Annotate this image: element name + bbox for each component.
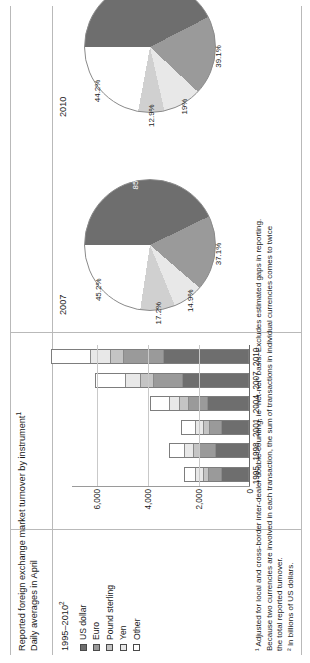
pie-slice-label: 37.1% [214,243,223,266]
bar-chart: 02,0004,0006,000 19951998200120042007201… [72,345,268,513]
legend-item-us-dollar: US dollar [78,585,88,651]
bar-segment [111,350,124,363]
pie-slice-label: 19% [180,99,189,115]
bar-column [184,467,249,482]
bar-column [51,349,249,364]
bar-segment [126,374,141,387]
pie-slice-label: 39.1% [213,45,222,68]
bar-plot-area: 02,0004,0006,000 [72,345,250,487]
footnote-line-1: ¹ Adjusted for local and cross-border in… [254,11,264,651]
title-footnote-marker: 1 [15,412,22,416]
y-axis-tick-label: 2,000 [195,489,204,510]
bar-segment [200,444,216,457]
bar-segment [170,444,186,457]
pie-slice-label: 14.9% [186,289,195,312]
bar-series-group [72,345,249,486]
legend-label: Other [132,619,142,641]
header-rule [52,6,53,655]
x-axis-line [249,345,250,486]
legend-swatch-icon [120,644,127,651]
bar-segment [151,397,170,410]
figure-rotation-wrapper: Reported foreign exchange market turnove… [0,0,310,663]
gridline [148,345,149,486]
pie-slice-label: 45.2% [93,278,102,301]
legend-label: US dollar [78,605,88,640]
chart-legend: US dollarEuroPound sterlingYenOther [78,585,145,651]
bar-segment [183,374,248,387]
y-axis-tick-label: 0 [246,489,255,494]
top-rule [10,6,11,655]
bar-segment [209,468,222,481]
bar-segment [210,421,223,434]
footnote-line-2: Because two currencies are involved in e… [265,11,275,651]
pie-slice-label: 17.2% [154,302,163,325]
legend-swatch-icon [106,644,113,651]
period-footnote-marker: 2 [58,601,65,605]
bar-column [181,420,249,435]
legend-item-yen: Yen [118,585,128,651]
pie-slice-label: 12.9% [147,104,156,127]
bar-column [169,443,249,458]
pie-2007-label: 2007 [58,295,68,315]
figure-title: Reported foreign exchange market turnove… [15,412,29,651]
pie-2010-disc [84,0,216,113]
figure-header: Reported foreign exchange market turnove… [15,412,40,651]
bar-segment [52,350,92,363]
bar-column [95,373,249,388]
gridline [199,345,200,486]
bar-segment [222,421,248,434]
footnotes: ¹ Adjusted for local and cross-border in… [254,11,296,651]
pie-2010-label: 2010 [58,97,68,117]
legend-swatch-icon [93,644,100,651]
bar-segment [180,397,189,410]
legend-label: Euro [91,622,101,640]
legend-item-euro: Euro [91,585,101,651]
bar-segment [124,350,164,363]
bar-segment [164,350,248,363]
pie-slice-label: 44.2% [93,80,102,103]
bottom-rule [301,6,302,655]
bar-segment [170,397,181,410]
bar-segment [185,444,193,457]
bar-segment [208,397,248,410]
legend-item-other: Other [132,585,142,651]
figure-subtitle: Daily averages in April [29,412,41,651]
bar-segment [185,468,197,481]
bar-segment [154,374,183,387]
pie-2007-disc [84,179,216,311]
y-axis-tick-label: 4,000 [144,489,153,510]
footnote-line-3: the total reported turnover. [275,11,285,651]
legend-swatch-icon [133,644,140,651]
bar-segment [196,468,204,481]
pie-chart-2010: 84.9%39.1%19%12.9%44.2% [84,0,216,113]
bar-panel-label: 1995–20102 [58,601,70,651]
bar-segment [182,421,196,434]
legend-label: Pound sterling [105,585,115,640]
legend-swatch-icon [80,644,87,651]
footnote-line-4: ² In billions of US dollars. [286,11,296,651]
figure-panel: Reported foreign exchange market turnove… [0,0,310,663]
bar-segment [91,350,111,363]
pie-chart-2007: 85.6%37.1%14.9%17.2%45.2% [84,179,216,311]
legend-item-pound-sterling: Pound sterling [105,585,115,651]
legend-label: Yen [118,625,128,640]
bar-segment [96,374,126,387]
bar-segment [216,444,248,457]
bar-segment [222,468,248,481]
pie-slice-label: 85.6% [130,167,139,190]
gridline [97,345,98,486]
y-axis-tick-label: 6,000 [93,489,102,510]
